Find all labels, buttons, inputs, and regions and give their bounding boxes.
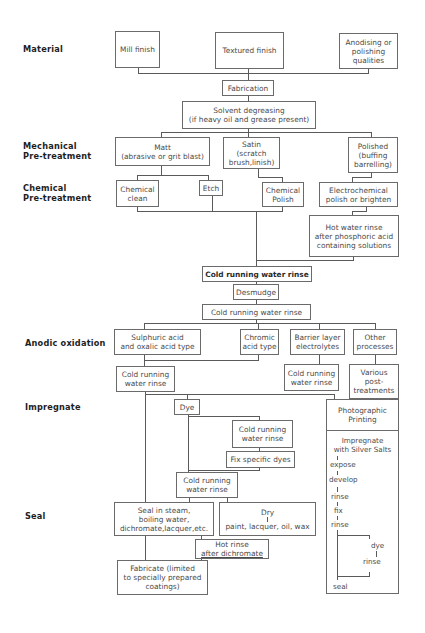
box-text: coatings)	[145, 582, 179, 591]
box-text: water rinse	[125, 379, 167, 388]
photo-step: dye	[371, 541, 384, 550]
box-cold-rinse-dye: Cold running water rinse	[232, 420, 293, 448]
box-text: Seal in steam,	[138, 506, 191, 515]
connector	[212, 195, 213, 212]
box-text: Photographic	[327, 406, 398, 415]
stage-label-line: Pre-treatment	[23, 151, 91, 161]
stage-label-seal: Seal	[25, 511, 46, 521]
connector	[145, 535, 146, 560]
connector	[248, 68, 249, 80]
box-text: and oxalic acid type	[120, 342, 194, 351]
photo-step: develop	[329, 475, 358, 484]
box-solvent-degreasing: Solvent degreasing (if heavy oil and gre…	[182, 101, 316, 129]
box-text: Textured finish	[222, 46, 276, 55]
box-fabricate-limited: Fabricate (limited to specially prepared…	[117, 560, 208, 595]
box-text: polish or brighten	[326, 195, 391, 204]
box-dye: Dye	[174, 399, 200, 415]
box-cold-rinse-2: Cold running water rinse	[202, 304, 311, 320]
photo-step: rinse	[331, 492, 349, 501]
box-dry: Dry paint, lacquer, oil, wax	[219, 502, 316, 536]
box-text: Satin	[242, 140, 261, 149]
connector	[145, 391, 146, 503]
box-text: brush,linish)	[229, 158, 275, 167]
box-polished: Polished (buffing barrelling)	[348, 137, 398, 173]
box-text: acid type	[242, 342, 276, 351]
box-text: Polish	[272, 195, 293, 204]
box-text: Hot water rinse	[326, 223, 383, 232]
box-desmudge: Desmudge	[233, 284, 279, 300]
photo-step-connector	[369, 535, 370, 539]
box-text: Desmudge	[236, 288, 276, 297]
box-chromic-acid: Chromic acid type	[240, 329, 279, 355]
stage-label-line: Mechanical	[23, 141, 91, 151]
box-text: Fix specific dyes	[230, 455, 290, 464]
box-text: (abrasive or grit blast)	[121, 152, 204, 161]
photo-step: rinse	[363, 557, 381, 566]
stage-label-mechanical: Mechanical Pre-treatment	[23, 141, 91, 161]
box-cold-rinse-after: Cold running water rinse	[176, 472, 238, 498]
box-text: polishing	[352, 47, 385, 56]
stage-label-impregnate: Impregnate	[25, 402, 81, 412]
box-barrier-layer: Barrier layer electrolytes	[290, 329, 345, 355]
box-text: qualities	[353, 56, 384, 65]
connector	[375, 354, 376, 364]
photo-step: expose	[330, 460, 356, 469]
box-text: Solvent degreasing	[213, 106, 284, 115]
connector	[256, 211, 257, 261]
photo-step: seal	[333, 582, 348, 591]
connector	[256, 260, 354, 261]
photo-step-connector	[337, 530, 338, 580]
box-text: after dichromate	[201, 549, 263, 558]
connector	[144, 360, 259, 361]
stage-label-chemical: Chemical Pre-treatment	[23, 183, 91, 203]
box-text: Cold running	[239, 425, 286, 434]
connector	[188, 470, 260, 471]
photographic-printing-panel: Photographic Printing Impregnate with Si…	[326, 399, 399, 594]
box-chemical-clean: Chemical clean	[116, 180, 159, 207]
box-text: Cold running	[122, 370, 169, 379]
box-text: Chemical	[266, 186, 300, 195]
box-text: Sulphuric acid	[131, 333, 183, 342]
box-text: Mill finish	[120, 45, 155, 54]
box-text: Chemical	[120, 185, 154, 194]
box-anodising-quality: Anodising or polishing qualities	[339, 33, 398, 69]
box-text: (buffing	[359, 151, 388, 160]
photo-step-connector	[337, 576, 370, 577]
connector	[161, 132, 372, 133]
connector	[352, 177, 372, 178]
box-text: treatments	[354, 386, 395, 395]
box-various-post-treatments: Various post- treatments	[349, 364, 399, 399]
box-text: Electrochemical	[329, 186, 388, 195]
box-text: water rinse	[242, 434, 284, 443]
box-text: Hot rinse	[215, 540, 249, 549]
stage-label-material: Material	[23, 44, 63, 54]
photo-step: fix	[334, 506, 343, 515]
box-electrochemical: Electrochemical polish or brighten	[319, 182, 398, 207]
photo-step: rinse	[331, 520, 349, 529]
box-text: processes	[357, 342, 394, 351]
box-fabrication: Fabrication	[222, 80, 274, 96]
box-satin: Satin (scratch brush,linish)	[223, 137, 280, 169]
connector	[188, 416, 260, 417]
box-textured-finish: Textured finish	[215, 32, 284, 69]
box-text: Polished	[358, 142, 389, 151]
box-text: electrolytes	[296, 342, 339, 351]
box-hot-rinse-dichromate: Hot rinse after dichromate	[195, 539, 269, 559]
box-text: to specially prepared	[124, 573, 202, 582]
box-mill-finish: Mill finish	[115, 31, 160, 68]
connector	[145, 394, 335, 395]
box-text: Various	[360, 368, 387, 377]
box-text: Cold running water rinse	[211, 308, 302, 317]
box-text: clean	[128, 194, 148, 203]
box-text: Cold running	[183, 476, 230, 485]
stage-label-anodic: Anodic oxidation	[25, 338, 106, 348]
box-etch: Etch	[199, 180, 223, 196]
photo-step: Impregnate	[327, 436, 398, 445]
box-other-processes: Other processes	[353, 329, 397, 355]
box-text: Cold running water rinse	[205, 270, 308, 279]
box-text: Fabrication	[228, 84, 269, 93]
box-text: barrelling)	[354, 160, 392, 169]
box-chemical-polish: Chemical Polish	[262, 182, 304, 207]
connector	[161, 165, 162, 175]
box-text: Matt	[154, 143, 171, 152]
